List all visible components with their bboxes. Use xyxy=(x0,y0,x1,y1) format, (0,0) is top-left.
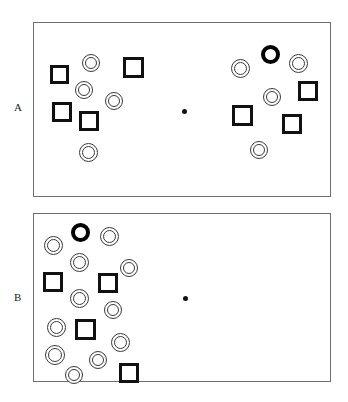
distractor-circle-icon xyxy=(70,289,89,308)
distractor-circle-icon xyxy=(111,333,130,352)
distractor-circle-icon xyxy=(70,253,89,272)
distractor-circle-icon xyxy=(289,54,308,73)
distractor-square-icon xyxy=(98,273,118,293)
distractor-square-icon xyxy=(119,363,139,383)
distractor-circle-icon xyxy=(250,141,268,159)
distractor-circle-icon xyxy=(82,54,100,72)
distractor-circle-icon xyxy=(79,143,98,162)
distractor-circle-icon xyxy=(120,259,138,277)
distractor-square-icon xyxy=(232,105,253,126)
distractor-square-icon xyxy=(52,102,72,122)
distractor-circle-icon xyxy=(231,59,250,78)
fixation-dot xyxy=(182,109,187,114)
distractor-square-icon xyxy=(123,57,144,78)
target-ring-icon xyxy=(71,223,90,242)
distractor-square-icon xyxy=(50,65,69,84)
fixation-dot xyxy=(183,296,188,301)
distractor-circle-icon xyxy=(44,236,63,255)
distractor-square-icon xyxy=(75,319,96,340)
distractor-circle-icon xyxy=(75,81,93,99)
distractor-circle-icon xyxy=(263,88,281,106)
distractor-circle-icon xyxy=(65,366,83,384)
target-ring-icon xyxy=(261,45,280,64)
distractor-square-icon xyxy=(43,272,63,292)
distractor-circle-icon xyxy=(45,345,65,365)
panel-label-a: A xyxy=(14,102,22,113)
distractor-circle-icon xyxy=(105,92,123,110)
distractor-circle-icon xyxy=(47,318,66,337)
distractor-square-icon xyxy=(79,111,99,131)
distractor-circle-icon xyxy=(100,227,119,246)
distractor-square-icon xyxy=(282,114,302,134)
distractor-circle-icon xyxy=(89,351,107,369)
distractor-circle-icon xyxy=(104,301,122,319)
panel-a-frame xyxy=(33,22,331,197)
visual-search-figure: AB xyxy=(0,0,348,402)
panel-label-b: B xyxy=(14,292,22,303)
panel-b-frame xyxy=(33,213,331,382)
distractor-square-icon xyxy=(298,81,318,101)
